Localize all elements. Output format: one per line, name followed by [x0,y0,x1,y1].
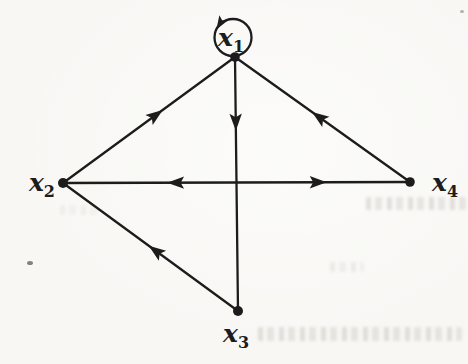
node-dot-x3 [233,306,243,316]
scan-artifact [60,205,100,215]
arrowhead-x2-x1 [145,105,166,125]
edge-x2-x4 [63,182,410,183]
node-label-base-x3: x [222,319,239,348]
scan-artifact [460,10,464,13]
scan-artifact [330,262,364,272]
node-label-x2: x2 [28,168,55,201]
scan-artifact [366,197,466,210]
graph-diagram: x1x2x3x4 [0,0,468,364]
scan-artifact [27,261,33,265]
node-label-base-x4: x [431,168,448,197]
node-label-sub-x2: 2 [44,182,55,201]
node-label-sub-x1: 1 [233,37,244,56]
arrowhead-x3-x2 [145,241,166,261]
node-label-sub-x3: 3 [238,333,249,352]
node-dot-x2 [58,178,68,188]
node-dot-x4 [405,177,415,187]
edge-x2-x1 [63,57,235,183]
node-label-base-x2: x [28,168,45,197]
node-label-base-x1: x [217,23,234,52]
scanned-page: x1x2x3x4 [0,0,468,364]
node-label-x1: x1 [217,23,244,56]
arrowhead-x4-x1 [308,107,329,127]
scan-artifact [258,327,462,341]
edge-x1-x3 [235,57,238,311]
node-label-x3: x3 [222,319,249,352]
